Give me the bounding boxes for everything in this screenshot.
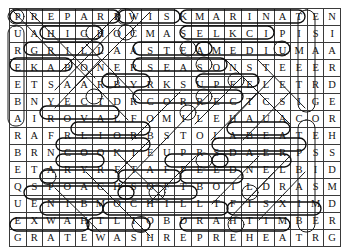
grid-cell[interactable]: K — [175, 9, 192, 26]
grid-cell[interactable]: P — [59, 9, 76, 26]
grid-cell[interactable]: B — [76, 196, 93, 213]
grid-cell[interactable]: S — [307, 179, 324, 196]
grid-cell[interactable]: U — [158, 145, 175, 162]
grid-cell[interactable]: I — [125, 145, 142, 162]
grid-cell[interactable]: R — [324, 111, 341, 128]
grid-cell[interactable]: B — [241, 128, 258, 145]
grid-cell[interactable]: O — [208, 60, 225, 77]
grid-cell[interactable]: E — [241, 77, 258, 94]
grid-cell[interactable]: A — [43, 230, 60, 247]
grid-cell[interactable]: R — [43, 43, 60, 60]
grid-cell[interactable]: I — [175, 111, 192, 128]
grid-cell[interactable]: D — [258, 179, 275, 196]
grid-cell[interactable]: R — [125, 94, 142, 111]
grid-cell[interactable]: I — [225, 179, 242, 196]
grid-cell[interactable]: N — [43, 145, 60, 162]
grid-cell[interactable]: A — [43, 162, 60, 179]
grid-cell[interactable]: F — [225, 196, 242, 213]
grid-cell[interactable]: N — [225, 60, 242, 77]
grid-cell[interactable]: R — [59, 128, 76, 145]
grid-cell[interactable]: T — [158, 43, 175, 60]
grid-cell[interactable]: I — [241, 196, 258, 213]
grid-cell[interactable]: I — [142, 9, 159, 26]
grid-cell[interactable]: I — [291, 26, 308, 43]
grid-cell[interactable]: D — [241, 43, 258, 60]
grid-cell[interactable]: M — [158, 111, 175, 128]
grid-cell[interactable]: K — [109, 145, 126, 162]
grid-cell[interactable]: A — [59, 213, 76, 230]
grid-cell[interactable]: F — [109, 162, 126, 179]
grid-cell[interactable]: I — [291, 196, 308, 213]
grid-cell[interactable]: P — [208, 77, 225, 94]
grid-cell[interactable]: F — [125, 111, 142, 128]
grid-cell[interactable]: T — [59, 230, 76, 247]
grid-cell[interactable]: E — [26, 196, 43, 213]
grid-cell[interactable]: A — [59, 77, 76, 94]
grid-cell[interactable]: E — [208, 162, 225, 179]
grid-cell[interactable]: S — [158, 9, 175, 26]
grid-cell[interactable]: S — [241, 60, 258, 77]
grid-cell[interactable]: A — [76, 77, 93, 94]
grid-cell[interactable]: F — [158, 179, 175, 196]
grid-cell[interactable]: A — [43, 60, 60, 77]
grid-cell[interactable]: I — [241, 9, 258, 26]
grid-cell[interactable]: S — [307, 145, 324, 162]
grid-cell[interactable]: T — [291, 77, 308, 94]
grid-cell[interactable]: A — [274, 230, 291, 247]
grid-cell[interactable]: E — [307, 9, 324, 26]
grid-cell[interactable]: H — [76, 213, 93, 230]
grid-cell[interactable]: A — [76, 9, 93, 26]
grid-cell[interactable]: T — [291, 230, 308, 247]
grid-cell[interactable]: E — [10, 60, 27, 77]
grid-cell[interactable]: A — [175, 60, 192, 77]
grid-cell[interactable]: D — [225, 145, 242, 162]
grid-cell[interactable]: E — [76, 230, 93, 247]
grid-cell[interactable]: P — [274, 26, 291, 43]
grid-cell[interactable]: R — [192, 94, 209, 111]
grid-cell[interactable]: E — [307, 213, 324, 230]
grid-cell[interactable]: D — [175, 213, 192, 230]
grid-cell[interactable]: B — [192, 179, 209, 196]
grid-cell[interactable]: P — [175, 145, 192, 162]
grid-cell[interactable]: H — [225, 213, 242, 230]
grid-cell[interactable]: E — [291, 60, 308, 77]
grid-cell[interactable]: L — [208, 128, 225, 145]
grid-cell[interactable]: X — [274, 196, 291, 213]
grid-cell[interactable]: R — [324, 60, 341, 77]
grid-cell[interactable]: L — [192, 196, 209, 213]
grid-cell[interactable]: K — [158, 77, 175, 94]
grid-cell[interactable]: G — [76, 26, 93, 43]
grid-cell[interactable]: O — [208, 179, 225, 196]
grid-cell[interactable]: I — [26, 111, 43, 128]
grid-cell[interactable]: I — [59, 196, 76, 213]
grid-cell[interactable]: C — [142, 94, 159, 111]
grid-cell[interactable]: E — [208, 111, 225, 128]
grid-cell[interactable]: M — [142, 26, 159, 43]
grid-cell[interactable]: L — [76, 128, 93, 145]
grid-cell[interactable]: O — [109, 196, 126, 213]
grid-cell[interactable]: D — [324, 162, 341, 179]
grid-cell[interactable]: F — [158, 162, 175, 179]
grid-cell[interactable]: N — [26, 94, 43, 111]
grid-cell[interactable]: C — [291, 111, 308, 128]
grid-cell[interactable]: A — [26, 128, 43, 145]
grid-cell[interactable]: R — [59, 162, 76, 179]
grid-cell[interactable]: R — [192, 213, 209, 230]
grid-cell[interactable]: Y — [43, 94, 60, 111]
grid-cell[interactable]: O — [142, 111, 159, 128]
grid-cell[interactable]: E — [59, 94, 76, 111]
grid-cell[interactable]: D — [109, 94, 126, 111]
grid-cell[interactable]: B — [109, 77, 126, 94]
grid-cell[interactable]: O — [109, 128, 126, 145]
grid-cell[interactable]: R — [175, 94, 192, 111]
grid-cell[interactable]: S — [43, 77, 60, 94]
grid-cell[interactable]: I — [92, 128, 109, 145]
grid-cell[interactable]: I — [59, 26, 76, 43]
grid-cell[interactable]: M — [274, 213, 291, 230]
grid-cell[interactable]: T — [125, 162, 142, 179]
grid-cell[interactable]: U — [192, 77, 209, 94]
grid-cell[interactable]: D — [225, 162, 242, 179]
grid-cell[interactable]: Y — [125, 77, 142, 94]
grid-cell[interactable]: A — [208, 213, 225, 230]
grid-cell[interactable]: U — [10, 196, 27, 213]
